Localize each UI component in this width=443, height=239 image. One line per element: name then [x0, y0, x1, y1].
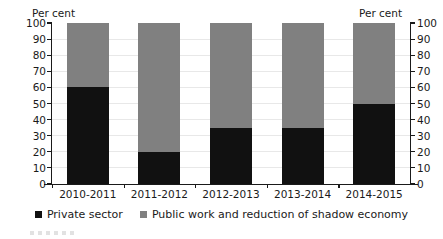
bar-segment[interactable] [353, 23, 395, 104]
axis-tick-label: 50 [33, 99, 46, 110]
axis-tick-label: 70 [417, 66, 430, 77]
square-marker-icon [140, 211, 147, 218]
bar-segment[interactable] [210, 128, 252, 184]
legend-item[interactable]: Private sector [35, 208, 123, 221]
bar-2010-2011[interactable] [67, 23, 109, 184]
axis-tick [47, 151, 51, 152]
axis-tick-label: 30 [417, 131, 430, 142]
bar-2012-2013[interactable] [210, 23, 252, 184]
axis-tick-label: 80 [417, 50, 430, 61]
x-axis-label: 2013-2014 [267, 188, 339, 200]
page-artifact [30, 231, 74, 235]
axis-tick-label: 50 [417, 99, 430, 110]
axis-tick [411, 103, 415, 104]
bar-segment[interactable] [138, 23, 180, 152]
axis-tick [47, 167, 51, 168]
x-axis-label: 2012-2013 [195, 188, 267, 200]
legend-label: Public work and reduction of shadow econ… [152, 208, 408, 221]
axis-tick [47, 55, 51, 56]
bar-segment[interactable] [67, 87, 109, 184]
x-axis-label: 2014-2015 [338, 188, 410, 200]
axis-tick [411, 119, 415, 120]
axis-tick [47, 135, 51, 136]
axis-tick [411, 135, 415, 136]
bar-segment[interactable] [282, 23, 324, 128]
axis-tick-label: 80 [33, 50, 46, 61]
x-axis-tick [52, 185, 53, 188]
legend-label: Private sector [47, 208, 123, 221]
axis-tick [47, 183, 51, 184]
axis-tick-label: 40 [417, 115, 430, 126]
bar-segment[interactable] [67, 23, 109, 87]
axis-tick-label: 70 [33, 66, 46, 77]
square-marker-icon [35, 211, 42, 218]
axis-tick [411, 39, 415, 40]
x-axis-tick [338, 185, 339, 188]
axis-tick-label: 100 [26, 18, 46, 29]
x-axis-label: 2011-2012 [124, 188, 196, 200]
axis-tick [411, 22, 415, 23]
chart-legend: Private sectorPublic work and reduction … [0, 208, 443, 221]
axis-tick-label: 10 [33, 163, 46, 174]
plot-area [52, 23, 410, 184]
axis-tick [47, 119, 51, 120]
x-axis-tick [195, 185, 196, 188]
chart-container: Per cent Per cent 0102030405060708090100… [0, 0, 443, 239]
axis-tick [411, 71, 415, 72]
x-axis-tick [267, 185, 268, 188]
bar-2011-2012[interactable] [138, 23, 180, 184]
bar-2013-2014[interactable] [282, 23, 324, 184]
axis-tick [47, 22, 51, 23]
x-axis-label: 2010-2011 [52, 188, 124, 200]
axis-tick-label: 20 [33, 147, 46, 158]
bar-segment[interactable] [210, 23, 252, 128]
axis-tick [411, 183, 415, 184]
axis-tick [411, 151, 415, 152]
axis-tick-label: 10 [417, 163, 430, 174]
axis-tick-label: 90 [33, 34, 46, 45]
bar-segment[interactable] [138, 152, 180, 184]
axis-tick-label: 0 [417, 179, 424, 190]
x-axis-tick [124, 185, 125, 188]
axis-tick [411, 87, 415, 88]
axis-tick-label: 100 [417, 18, 437, 29]
axis-tick [47, 71, 51, 72]
legend-item[interactable]: Public work and reduction of shadow econ… [140, 208, 408, 221]
axis-tick-label: 60 [33, 82, 46, 93]
axis-tick-label: 20 [417, 147, 430, 158]
axis-tick [411, 55, 415, 56]
axis-tick-label: 60 [417, 82, 430, 93]
bar-segment[interactable] [353, 104, 395, 185]
bar-2014-2015[interactable] [353, 23, 395, 184]
axis-tick-label: 40 [33, 115, 46, 126]
right-axis-title: Per cent [359, 7, 402, 19]
axis-tick [47, 39, 51, 40]
axis-tick [411, 167, 415, 168]
bar-segment[interactable] [282, 128, 324, 184]
axis-tick [47, 87, 51, 88]
axis-tick-label: 90 [417, 34, 430, 45]
axis-tick [47, 103, 51, 104]
axis-tick-label: 0 [39, 179, 46, 190]
axis-tick-label: 30 [33, 131, 46, 142]
